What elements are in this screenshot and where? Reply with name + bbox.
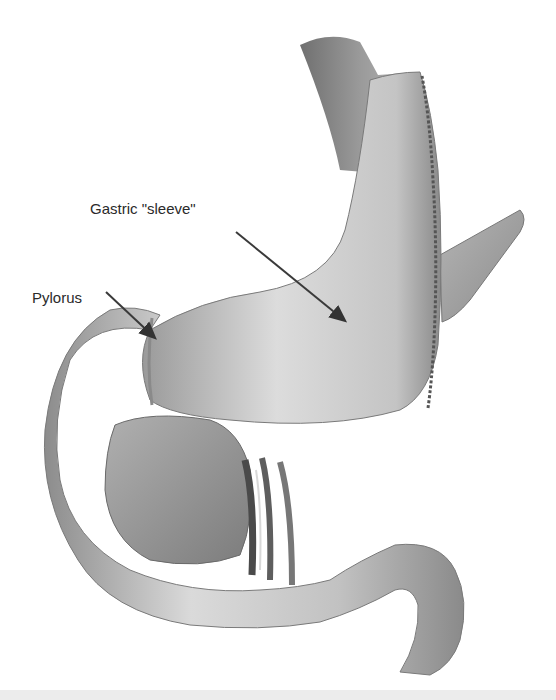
anatomy-figure: Gastric "sleeve" Pylorus <box>0 0 556 700</box>
sleeve-label: Gastric "sleeve" <box>90 200 196 217</box>
blood-vessels <box>245 458 292 585</box>
pancreas <box>105 416 251 564</box>
bottom-band <box>0 690 556 700</box>
gastric-sleeve <box>143 72 442 423</box>
stomach-remnant-flap <box>440 210 524 322</box>
pylorus-label: Pylorus <box>32 289 82 306</box>
stomach-illustration <box>0 0 556 700</box>
